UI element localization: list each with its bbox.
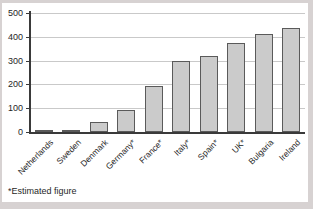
bar-bulgaria bbox=[255, 34, 273, 132]
bar-france bbox=[145, 86, 163, 132]
bar-chart: 0100200300400500 NetherlandsSwedenDenmar… bbox=[2, 3, 308, 202]
bar-ireland bbox=[282, 28, 300, 132]
gridline bbox=[30, 13, 305, 14]
bar-netherlands bbox=[35, 130, 53, 132]
bar-italy bbox=[172, 61, 190, 132]
y-axis-tick-label: 100 bbox=[2, 103, 23, 113]
chart-footnote: *Estimated figure bbox=[8, 186, 77, 197]
x-axis-category-label: Netherlands bbox=[16, 138, 55, 177]
x-axis-category-label: Spain* bbox=[196, 138, 220, 162]
x-axis-category-label: Bulgaria bbox=[247, 138, 275, 166]
bar-uk bbox=[227, 43, 245, 132]
y-axis-tick-label: 400 bbox=[2, 32, 23, 42]
y-axis-line bbox=[29, 11, 31, 132]
page-background: 0100200300400500 NetherlandsSwedenDenmar… bbox=[0, 0, 313, 209]
x-axis-category-label: France* bbox=[138, 138, 165, 165]
bar-sweden bbox=[62, 130, 80, 132]
x-axis-category-label: Italy* bbox=[173, 138, 193, 158]
y-axis-tick-label: 500 bbox=[2, 8, 23, 18]
y-axis-tick-label: 300 bbox=[2, 56, 23, 66]
x-axis-category-label: UK* bbox=[231, 138, 248, 155]
x-axis-category-label: Ireland bbox=[278, 138, 303, 163]
y-axis-tick-label: 200 bbox=[2, 79, 23, 89]
bar-denmark bbox=[90, 122, 108, 132]
x-axis-line bbox=[29, 132, 305, 134]
bar-germany bbox=[117, 110, 135, 132]
y-axis-tick-label: 0 bbox=[2, 127, 23, 137]
bar-spain bbox=[200, 56, 218, 132]
